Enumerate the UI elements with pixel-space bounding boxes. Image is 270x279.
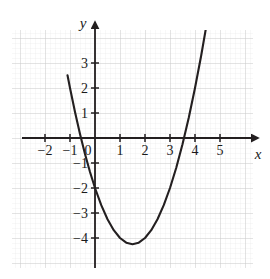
y-tick-label: −3 bbox=[73, 206, 88, 221]
y-tick-label: 2 bbox=[81, 81, 88, 96]
y-tick-label: −2 bbox=[73, 181, 88, 196]
graph-figure: −2 −1 1 2 3 4 5 0 3 2 1 −1 −2 −3 −4 x y bbox=[0, 0, 270, 279]
y-tick-label: 3 bbox=[81, 56, 88, 71]
coordinate-plane: −2 −1 1 2 3 4 5 0 3 2 1 −1 −2 −3 −4 x y bbox=[0, 0, 270, 279]
x-tick-label: 4 bbox=[192, 143, 199, 158]
x-tick-label: 5 bbox=[217, 143, 224, 158]
x-tick-label: 3 bbox=[167, 143, 174, 158]
y-axis-label: y bbox=[78, 15, 87, 31]
x-axis-label: x bbox=[254, 146, 262, 162]
x-tick-label: 2 bbox=[142, 143, 149, 158]
y-tick-label: 1 bbox=[81, 106, 88, 121]
x-tick-label: 1 bbox=[117, 143, 124, 158]
x-tick-label: −2 bbox=[38, 143, 53, 158]
y-tick-label: −4 bbox=[73, 231, 88, 246]
